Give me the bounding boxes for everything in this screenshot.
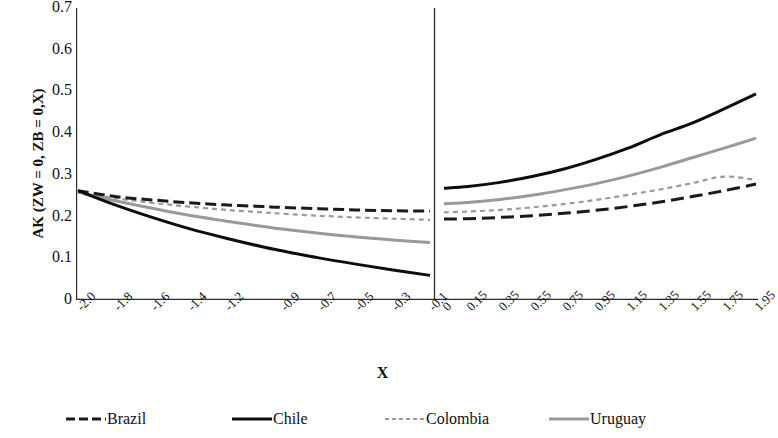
y-tick-label: 0.7 — [28, 0, 72, 15]
x-axis-tick-labels: -2.0-1.8-1.6-1.4-1.2-0.9-0.7-0.5-0.3-0.1… — [0, 300, 765, 362]
y-tick-label: 0.5 — [28, 82, 72, 98]
legend-item-uruguay[interactable]: Uruguay — [549, 411, 646, 427]
y-axis-tick-labels: 0.70.60.50.40.30.20.10 — [24, 0, 72, 310]
chart-legend: BrazilChileColombiaUruguay — [0, 404, 765, 434]
plot-svg — [76, 8, 758, 300]
plot-area — [76, 8, 758, 300]
legend-label-uruguay: Uruguay — [590, 411, 646, 427]
y-tick-label: 0.4 — [28, 124, 72, 140]
y-tick-label: 0.6 — [28, 41, 72, 57]
legend-label-chile: Chile — [273, 411, 308, 427]
legend-swatch-chile-icon — [232, 412, 272, 426]
series-line-brazil-left — [78, 191, 430, 211]
y-tick-label: 0.1 — [28, 249, 72, 265]
x-axis-title: X — [0, 364, 765, 382]
x-tick-label: 0 — [440, 299, 454, 313]
legend-item-colombia[interactable]: Colombia — [385, 411, 489, 427]
legend-label-colombia: Colombia — [426, 411, 489, 427]
legend-item-chile[interactable]: Chile — [232, 411, 308, 427]
series-line-chile-right — [444, 94, 756, 188]
legend-swatch-uruguay-icon — [549, 412, 589, 426]
y-tick-label: 0.3 — [28, 166, 72, 182]
legend-label-brazil: Brazil — [107, 411, 146, 427]
legend-item-brazil[interactable]: Brazil — [66, 411, 146, 427]
series-chile — [78, 94, 756, 275]
legend-swatch-colombia-icon — [385, 412, 425, 426]
legend-swatch-brazil-icon — [66, 412, 106, 426]
y-tick-label: 0.2 — [28, 208, 72, 224]
